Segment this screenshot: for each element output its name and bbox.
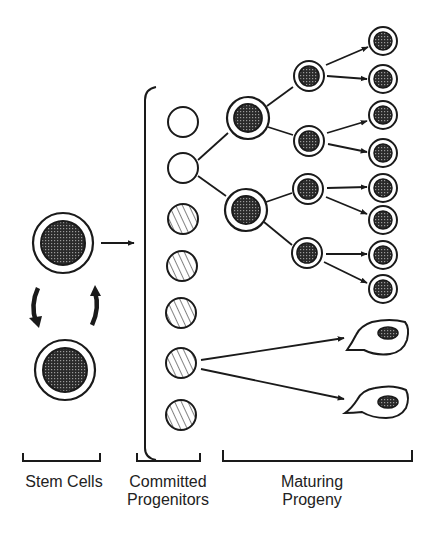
self-renewal-arrowhead-down-icon: [29, 316, 42, 328]
committed-label-line1: Committed: [118, 473, 218, 491]
stem-cell-top: [33, 213, 93, 273]
progenitors-group: [166, 107, 198, 430]
gen2-group: [292, 61, 324, 268]
gen1-group: [225, 97, 269, 231]
gen3-arrows: [324, 47, 368, 283]
stem-cell-bottom: [35, 340, 95, 400]
stem-cells-group: [29, 213, 134, 400]
maturing-label-line1: Maturing: [262, 473, 362, 491]
progenitor-cell: [168, 153, 198, 183]
progenitor-cell-hatched: [167, 251, 197, 281]
macrophage-cell-bottom: [345, 386, 408, 418]
self-renewal-arrowhead-up-icon: [90, 285, 101, 296]
link-line: [266, 193, 292, 202]
arrow-to-macrophage-top-icon: [201, 338, 344, 360]
progenitor-cell-hatched: [166, 348, 196, 378]
stem-cells-label: Stem Cells: [14, 473, 114, 491]
link-line: [268, 127, 293, 135]
gen3-group: [369, 27, 397, 303]
progenitor-cell-hatched: [166, 298, 196, 328]
macrophage-cell-top: [347, 320, 408, 355]
link-line: [198, 176, 226, 196]
maturing-progeny-label: Maturing Progeny: [262, 473, 362, 509]
maturing-label-line2: Progeny: [262, 491, 362, 509]
progenitor-cell: [168, 107, 198, 137]
progenitor-cell-hatched: [166, 400, 196, 430]
self-renewal-arrow-up-icon: [92, 292, 97, 325]
link-line: [198, 133, 228, 160]
committed-progenitors-label: Committed Progenitors: [118, 473, 218, 509]
stem-cells-bracket: [23, 453, 100, 461]
link-line: [267, 87, 293, 106]
progenitor-bracket: [145, 87, 156, 460]
maturing-bracket: [223, 450, 412, 461]
hematopoiesis-diagram: [0, 0, 439, 535]
stem-cells-label-text: Stem Cells: [25, 473, 102, 490]
committed-label-line2: Progenitors: [118, 491, 218, 509]
arrow-to-macrophage-bottom-icon: [201, 369, 344, 399]
link-line: [264, 222, 292, 245]
progenitor-cell-hatched: [168, 204, 198, 234]
